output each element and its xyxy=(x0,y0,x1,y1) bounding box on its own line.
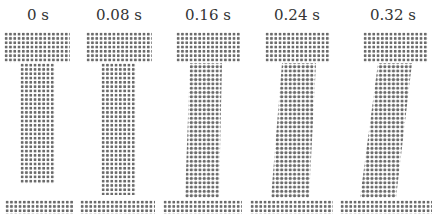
column xyxy=(0,0,437,219)
panel-0.32s: 0.32 s xyxy=(0,0,437,219)
base-block xyxy=(340,200,432,214)
